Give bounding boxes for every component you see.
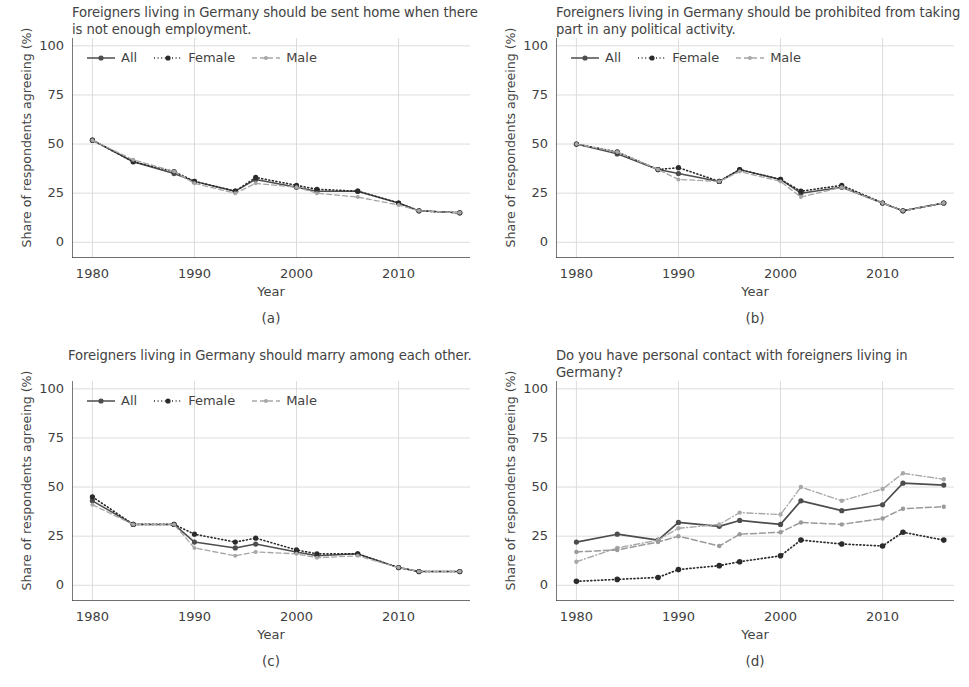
- panel-d-y-tick-25: 25: [514, 528, 548, 543]
- panel-d-x-tick-1980: 1980: [560, 609, 593, 624]
- panel-c-plot-area: [72, 381, 470, 601]
- legend-label: All: [605, 50, 621, 65]
- panel-d-y-ticks: 0255075100: [514, 381, 548, 601]
- panel-c-x-tick-2010: 2010: [382, 609, 415, 624]
- panel-b-y-tick-25: 25: [514, 185, 548, 200]
- panel-b-x-tick-2010: 2010: [866, 266, 899, 281]
- figure-grid: Foreigners living in Germany should be s…: [0, 0, 969, 687]
- panel-d-y-tick-50: 50: [514, 479, 548, 494]
- legend-line-marker-icon: [86, 395, 116, 407]
- panel-b-y-tick-0: 0: [514, 234, 548, 249]
- legend-line-marker-icon: [251, 52, 281, 64]
- panel-b-legend-item-1[interactable]: Female: [637, 50, 719, 65]
- panel-a-x-tick-1990: 1990: [178, 266, 211, 281]
- panel-d-x-tick-1990: 1990: [662, 609, 695, 624]
- panel-c: Foreigners living in Germany should marr…: [0, 343, 484, 687]
- panel-c-x-ticks: 1980199020002010: [72, 605, 470, 625]
- legend-label: Female: [672, 50, 719, 65]
- panel-c-title: Foreigners living in Germany should marr…: [68, 347, 478, 364]
- panel-c-y-tick-0: 0: [30, 577, 64, 592]
- panel-a-y-tick-0: 0: [30, 234, 64, 249]
- panel-a-x-tick-2000: 2000: [280, 266, 313, 281]
- panel-c-legend: AllFemaleMale: [86, 393, 317, 408]
- panel-a-x-tick-1980: 1980: [76, 266, 109, 281]
- panel-a-y-tick-100: 100: [30, 38, 64, 53]
- panel-d: Do you have personal contact with foreig…: [484, 343, 969, 687]
- panel-d-y-tick-75: 75: [514, 430, 548, 445]
- panel-a-x-axis-label: Year: [72, 284, 470, 299]
- panel-a-legend-item-2[interactable]: Male: [251, 50, 317, 65]
- legend-label: Male: [286, 50, 317, 65]
- legend-label: Male: [770, 50, 801, 65]
- panel-a: Foreigners living in Germany should be s…: [0, 0, 484, 343]
- legend-line-marker-icon: [153, 395, 183, 407]
- panel-d-plot-area: [556, 381, 954, 601]
- panel-a-y-tick-75: 75: [30, 87, 64, 102]
- panel-d-y-tick-100: 100: [514, 381, 548, 396]
- panel-b-y-tick-100: 100: [514, 38, 548, 53]
- panel-b-x-axis-label: Year: [556, 284, 954, 299]
- panel-a-legend-item-1[interactable]: Female: [153, 50, 235, 65]
- panel-b-y-tick-50: 50: [514, 136, 548, 151]
- legend-line-marker-icon: [153, 52, 183, 64]
- panel-b-svg: [556, 38, 954, 258]
- panel-c-x-axis-label: Year: [72, 627, 470, 642]
- panel-a-plot-area: [72, 38, 470, 258]
- legend-line-marker-icon: [735, 52, 765, 64]
- panel-b-x-ticks: 1980199020002010: [556, 262, 954, 282]
- panel-c-caption: (c): [72, 653, 470, 669]
- panel-b-x-tick-1990: 1990: [662, 266, 695, 281]
- panel-a-legend: AllFemaleMale: [86, 50, 317, 65]
- panel-b-legend-item-0[interactable]: All: [570, 50, 621, 65]
- panel-c-y-tick-100: 100: [30, 381, 64, 396]
- panel-d-x-ticks: 1980199020002010: [556, 605, 954, 625]
- panel-b-x-tick-2000: 2000: [764, 266, 797, 281]
- panel-c-x-tick-1990: 1990: [178, 609, 211, 624]
- panel-d-x-axis-label: Year: [556, 627, 954, 642]
- panel-b-legend: AllFemaleMale: [570, 50, 801, 65]
- legend-line-marker-icon: [86, 52, 116, 64]
- panel-c-legend-item-0[interactable]: All: [86, 393, 137, 408]
- panel-b-plot-area: [556, 38, 954, 258]
- panel-d-caption: (d): [556, 653, 954, 669]
- panel-c-y-tick-75: 75: [30, 430, 64, 445]
- panel-c-y-tick-50: 50: [30, 479, 64, 494]
- panel-d-svg: [556, 381, 954, 601]
- legend-label: Female: [188, 393, 235, 408]
- legend-label: Female: [188, 50, 235, 65]
- panel-c-y-ticks: 0255075100: [30, 381, 64, 601]
- panel-c-x-tick-1980: 1980: [76, 609, 109, 624]
- panel-b-legend-item-2[interactable]: Male: [735, 50, 801, 65]
- panel-a-legend-item-0[interactable]: All: [86, 50, 137, 65]
- panel-c-y-tick-25: 25: [30, 528, 64, 543]
- panel-c-legend-item-1[interactable]: Female: [153, 393, 235, 408]
- panel-a-svg: [72, 38, 470, 258]
- panel-b-y-tick-75: 75: [514, 87, 548, 102]
- panel-b-x-tick-1980: 1980: [560, 266, 593, 281]
- panel-d-y-tick-0: 0: [514, 577, 548, 592]
- panel-a-y-tick-25: 25: [30, 185, 64, 200]
- legend-line-marker-icon: [570, 52, 600, 64]
- panel-c-legend-item-2[interactable]: Male: [251, 393, 317, 408]
- panel-d-x-tick-2010: 2010: [866, 609, 899, 624]
- panel-d-x-tick-2000: 2000: [764, 609, 797, 624]
- legend-line-marker-icon: [251, 395, 281, 407]
- legend-label: All: [121, 393, 137, 408]
- panel-a-x-ticks: 1980199020002010: [72, 262, 470, 282]
- legend-label: All: [121, 50, 137, 65]
- panel-a-x-tick-2010: 2010: [382, 266, 415, 281]
- panel-b: Foreigners living in Germany should be p…: [484, 0, 969, 343]
- panel-c-x-tick-2000: 2000: [280, 609, 313, 624]
- panel-d-title: Do you have personal contact with foreig…: [556, 347, 963, 381]
- panel-b-y-ticks: 0255075100: [514, 38, 548, 258]
- panel-b-caption: (b): [556, 310, 954, 326]
- panel-c-svg: [72, 381, 470, 601]
- legend-line-marker-icon: [637, 52, 667, 64]
- panel-a-title: Foreigners living in Germany should be s…: [72, 4, 478, 38]
- panel-b-title: Foreigners living in Germany should be p…: [556, 4, 963, 38]
- panel-a-y-ticks: 0255075100: [30, 38, 64, 258]
- panel-a-y-tick-50: 50: [30, 136, 64, 151]
- panel-a-caption: (a): [72, 310, 470, 326]
- legend-label: Male: [286, 393, 317, 408]
